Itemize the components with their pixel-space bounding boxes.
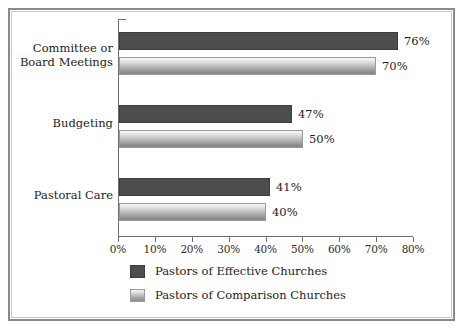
bar-value-comparison-pastoral-care: 40% [272,205,298,219]
bar-value-comparison-committee-or-board-meetings: 70% [382,59,408,73]
x-axis-tick [155,237,156,242]
bar-value-effective-committee-or-board-meetings: 76% [404,34,430,48]
bar-value-effective-pastoral-care: 41% [276,180,302,194]
bar-comparison-committee-or-board-meetings [119,57,376,75]
x-axis-tick-label: 40% [254,243,277,255]
category-label-pastoral-care: Pastoral Care [0,189,113,203]
x-axis-tick [413,237,414,242]
bar-comparison-pastoral-care [119,203,266,221]
x-axis-tick [192,237,193,242]
x-axis-tick-label: 30% [217,243,240,255]
bar-effective-budgeting [119,105,292,123]
bar-comparison-budgeting [119,130,303,148]
legend-swatch-effective-churches [130,265,145,278]
x-axis-tick-label: 50% [291,243,314,255]
x-axis-tick [266,237,267,242]
category-label-budgeting: Budgeting [0,117,113,131]
x-axis-tick-label: 60% [328,243,351,255]
x-axis-tick [229,237,230,242]
x-axis-tick [376,237,377,242]
category-label-committee-or-board-meetings: Committee or Board Meetings [0,42,113,69]
x-axis-tick-label: 80% [402,243,425,255]
x-axis-tick [118,237,119,242]
x-axis-tick-label: 70% [365,243,388,255]
bar-effective-committee-or-board-meetings [119,32,398,50]
y-axis-top-cap [118,19,126,20]
x-axis-tick [302,237,303,242]
x-axis-tick-label: 0% [110,243,126,255]
bar-value-effective-budgeting: 47% [298,107,324,121]
x-axis-tick-label: 20% [180,243,203,255]
legend-swatch-comparison-churches [130,289,145,302]
bar-chart-plot-area: 0%10%20%30%40%50%60%70%80% Committee or … [0,0,463,329]
bar-effective-pastoral-care [119,178,270,196]
bar-value-comparison-budgeting: 50% [309,132,335,146]
legend-label-comparison-churches: Pastors of Comparison Churches [155,288,346,302]
x-axis-tick-label: 10% [144,243,167,255]
x-axis-tick [339,237,340,242]
legend-label-effective-churches: Pastors of Effective Churches [155,264,327,278]
